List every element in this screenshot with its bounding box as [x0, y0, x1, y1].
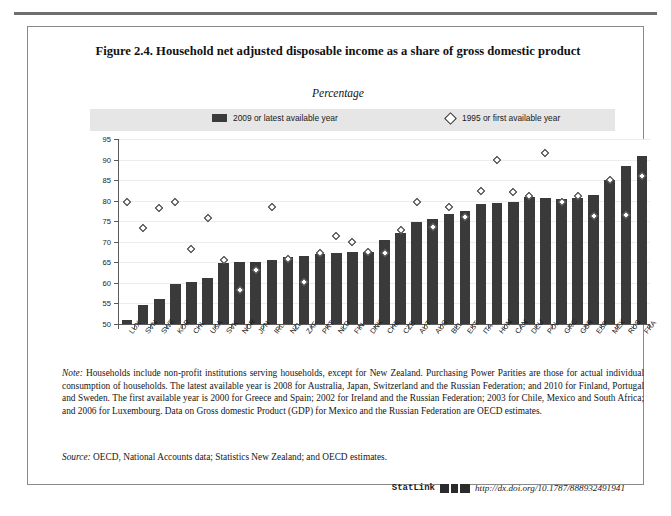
x-axis-tick [617, 325, 618, 329]
legend-item-bars: 2009 or latest available year [212, 113, 338, 123]
y-axis-label: 50 [103, 320, 111, 329]
marker-diamond [171, 198, 179, 206]
chart-plot: 50556065707580859095 LUXSVNSWEKORCHLUSAS… [90, 139, 650, 325]
x-axis-tick [440, 325, 441, 329]
x-axis-tick [488, 325, 489, 329]
x-axis-tick [424, 325, 425, 329]
marker-diamond [139, 224, 147, 232]
bar [411, 222, 422, 324]
bar [218, 263, 229, 324]
bar [460, 211, 471, 324]
x-axis-tick [327, 325, 328, 329]
bar [315, 254, 326, 324]
bar [540, 198, 551, 324]
x-axis-tick [311, 325, 312, 329]
bar [427, 219, 438, 324]
marker-diamond [123, 197, 131, 205]
marker-diamond [509, 188, 517, 196]
x-axis-tick [343, 325, 344, 329]
bar [492, 203, 503, 324]
marker-diamond [412, 198, 420, 206]
x-axis-tick [601, 325, 602, 329]
figure-subtitle: Percentage [88, 87, 588, 99]
marker-diamond [493, 155, 501, 163]
figure-note: Note: Households include non-profit inst… [62, 367, 644, 417]
x-axis-tick [182, 325, 183, 329]
chart-plot-area: 50556065707580859095 [118, 139, 650, 325]
y-axis-label: 70 [103, 237, 111, 246]
legend-label-markers: 1995 or first available year [462, 113, 560, 123]
x-axis-tick [633, 325, 634, 329]
x-axis-tick [585, 325, 586, 329]
x-axis-tick [375, 325, 376, 329]
bar [476, 204, 487, 324]
x-axis-tick [279, 325, 280, 329]
legend-label-bars: 2009 or latest available year [233, 113, 338, 123]
bar [444, 214, 455, 324]
bar [331, 253, 342, 324]
legend-diamond-icon [444, 112, 457, 125]
marker-diamond [477, 187, 485, 195]
figure-title: Figure 2.4. Household net adjusted dispo… [88, 43, 588, 60]
statlink-url[interactable]: http://dx.doi.org/10.1787/888932491941 [475, 483, 625, 493]
bar [508, 202, 519, 324]
y-axis-label: 90 [103, 155, 111, 164]
grid-line [119, 180, 650, 181]
x-axis-tick [247, 325, 248, 329]
x-axis-tick [231, 325, 232, 329]
grid-line [119, 201, 650, 202]
x-axis-tick [134, 325, 135, 329]
figure-source: Source: OECD, National Accounts data; St… [62, 451, 644, 464]
y-axis-tick [114, 303, 119, 304]
bar [556, 199, 567, 324]
note-text: Households include non-profit institutio… [62, 368, 644, 416]
source-label: Source: [62, 452, 91, 462]
bar [186, 282, 197, 324]
x-axis-tick [569, 325, 570, 329]
y-axis-label: 75 [103, 217, 111, 226]
bar [267, 260, 278, 324]
y-axis-tick [114, 242, 119, 243]
chart-x-axis-labels: LUXSVNSWEKORCHLUSASVKNORJPNIRLNZLZAFPRTN… [118, 325, 650, 359]
x-axis-tick [552, 325, 553, 329]
x-axis-tick [649, 325, 650, 329]
x-axis-tick [472, 325, 473, 329]
y-axis-label: 55 [103, 299, 111, 308]
marker-diamond [155, 203, 163, 211]
figure-page: Figure 2.4. Household net adjusted dispo… [0, 0, 671, 516]
y-axis-label: 95 [103, 135, 111, 144]
x-axis-tick [359, 325, 360, 329]
grid-line [119, 139, 650, 140]
bar [395, 233, 406, 324]
bar [572, 198, 583, 324]
grid-line [119, 221, 650, 222]
bar [363, 252, 374, 324]
y-axis-tick [114, 160, 119, 161]
bar [299, 256, 310, 324]
marker-diamond [332, 232, 340, 240]
y-axis-tick [114, 139, 119, 140]
figure-frame: Figure 2.4. Household net adjusted dispo… [27, 26, 644, 485]
x-axis-tick [118, 325, 119, 329]
bar [637, 156, 648, 324]
chart-legend: 2009 or latest available year 1995 or fi… [90, 109, 615, 131]
y-axis-label: 85 [103, 176, 111, 185]
y-axis-tick [114, 180, 119, 181]
x-axis-tick [150, 325, 151, 329]
x-axis-tick [215, 325, 216, 329]
statlink[interactable]: StatLink http://dx.doi.org/10.1787/88893… [392, 483, 625, 493]
source-text: OECD, National Accounts data; Statistics… [91, 452, 387, 462]
bar [202, 278, 213, 324]
y-axis-label: 65 [103, 258, 111, 267]
bar [283, 257, 294, 324]
legend-item-markers: 1995 or first available year [445, 113, 560, 123]
grid-line [119, 160, 650, 161]
statlink-label: StatLink [392, 483, 435, 493]
y-axis-tick [114, 221, 119, 222]
legend-bar-swatch-icon [212, 114, 227, 122]
marker-diamond [348, 238, 356, 246]
x-axis-tick [520, 325, 521, 329]
y-axis-label: 60 [103, 278, 111, 287]
y-axis-label: 80 [103, 196, 111, 205]
note-label: Note: [62, 368, 83, 378]
